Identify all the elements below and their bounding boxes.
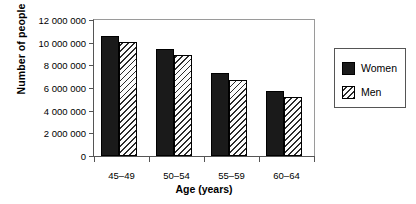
y-axis-tick-label: 0	[81, 151, 86, 162]
x-axis-title: Age (years)	[93, 183, 315, 195]
x-axis-tick-label: 55–59	[218, 170, 244, 181]
bar-men-60-64	[284, 97, 302, 156]
plot-area: 02 000 0004 000 0006 000 0008 000 00010 …	[93, 19, 315, 157]
bar-men-45-49	[119, 42, 137, 156]
legend-item-men: Men	[342, 80, 405, 104]
y-axis-tick	[89, 88, 94, 89]
x-axis-tick	[259, 156, 260, 162]
y-axis-tick	[89, 65, 94, 66]
x-axis-tick	[314, 156, 315, 162]
y-axis-tick	[89, 20, 94, 21]
chart-legend: Women Men	[334, 48, 406, 108]
legend-swatch-men	[342, 86, 355, 99]
y-axis-tick-label: 2 000 000	[44, 128, 86, 139]
y-axis-tick	[89, 133, 94, 134]
x-axis-tick-label: 60–64	[273, 170, 299, 181]
x-axis-tick-label: 50–54	[163, 170, 189, 181]
x-axis-tick	[149, 156, 150, 162]
y-axis-tick-label: 10 000 000	[38, 37, 86, 48]
bar-women-60-64	[266, 91, 284, 156]
y-axis-tick-label: 6 000 000	[44, 83, 86, 94]
y-axis-tick	[89, 111, 94, 112]
bar-women-45-49	[101, 36, 119, 156]
x-axis-tick	[204, 156, 205, 162]
legend-swatch-women	[342, 62, 355, 75]
bar-women-50-54	[156, 49, 174, 156]
y-axis-title: Number of people	[12, 0, 30, 114]
y-axis-tick-label: 8 000 000	[44, 60, 86, 71]
bar-men-55-59	[229, 80, 247, 157]
y-axis-tick	[89, 43, 94, 44]
y-axis-tick-label: 4 000 000	[44, 105, 86, 116]
legend-label-men: Men	[361, 86, 381, 98]
bar-women-55-59	[211, 73, 229, 156]
x-axis-tick	[94, 156, 95, 162]
x-axis-tick-label: 45–49	[108, 170, 134, 181]
legend-item-women: Women	[342, 56, 405, 80]
y-axis-tick-label: 12 000 000	[38, 15, 86, 26]
bar-men-50-54	[174, 55, 192, 156]
bar-chart-figure: Number of people 02 000 0004 000 0006 00…	[0, 0, 416, 204]
legend-label-women: Women	[361, 62, 397, 74]
